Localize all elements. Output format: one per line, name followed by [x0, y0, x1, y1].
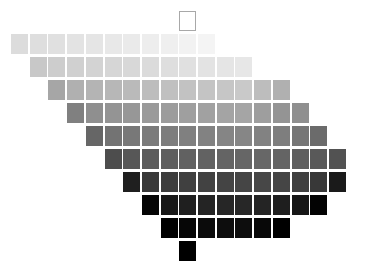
heatmap-cell[interactable]	[142, 195, 159, 215]
heatmap-cell[interactable]	[67, 57, 84, 77]
heatmap-cell[interactable]	[179, 149, 196, 169]
heatmap-cell[interactable]	[179, 172, 196, 192]
heatmap-cell[interactable]	[217, 195, 234, 215]
heatmap-cell[interactable]	[217, 218, 234, 238]
heatmap-cell[interactable]	[217, 149, 234, 169]
heatmap-cell[interactable]	[273, 126, 290, 146]
heatmap-cell[interactable]	[86, 126, 103, 146]
heatmap-cell[interactable]	[198, 149, 215, 169]
heatmap-cell[interactable]	[198, 172, 215, 192]
heatmap-cell[interactable]	[161, 218, 178, 238]
heatmap-cell[interactable]	[235, 172, 252, 192]
heatmap-cell[interactable]	[67, 34, 84, 54]
heatmap-cell[interactable]	[123, 57, 140, 77]
heatmap-cell[interactable]	[310, 172, 327, 192]
heatmap-cell[interactable]	[105, 34, 122, 54]
heatmap-cell[interactable]	[179, 80, 196, 100]
heatmap-cell[interactable]	[123, 149, 140, 169]
heatmap-cell[interactable]	[217, 80, 234, 100]
heatmap-cell[interactable]	[217, 172, 234, 192]
heatmap-cell[interactable]	[161, 34, 178, 54]
heatmap-cell[interactable]	[142, 126, 159, 146]
heatmap-cell[interactable]	[198, 103, 215, 123]
heatmap-cell[interactable]	[217, 57, 234, 77]
heatmap-cell[interactable]	[105, 149, 122, 169]
heatmap-cell[interactable]	[235, 103, 252, 123]
heatmap-cell[interactable]	[179, 34, 196, 54]
heatmap-cell[interactable]	[292, 149, 309, 169]
heatmap-cell[interactable]	[235, 126, 252, 146]
heatmap-cell[interactable]	[198, 57, 215, 77]
heatmap-cell[interactable]	[123, 80, 140, 100]
heatmap-cell[interactable]	[292, 103, 309, 123]
heatmap-cell[interactable]	[273, 218, 290, 238]
heatmap-cell[interactable]	[142, 103, 159, 123]
heatmap-cell[interactable]	[179, 103, 196, 123]
heatmap-cell[interactable]	[123, 172, 140, 192]
heatmap-cell[interactable]	[235, 57, 252, 77]
heatmap-cell[interactable]	[105, 126, 122, 146]
heatmap-cell[interactable]	[179, 126, 196, 146]
heatmap-cell[interactable]	[198, 218, 215, 238]
heatmap-cell[interactable]	[235, 195, 252, 215]
heatmap-cell[interactable]	[273, 195, 290, 215]
heatmap-cell[interactable]	[142, 80, 159, 100]
heatmap-cell[interactable]	[179, 195, 196, 215]
heatmap-cell[interactable]	[198, 80, 215, 100]
heatmap-cell[interactable]	[123, 103, 140, 123]
heatmap-cell[interactable]	[254, 80, 271, 100]
heatmap-cell[interactable]	[217, 103, 234, 123]
heatmap-cell[interactable]	[235, 80, 252, 100]
heatmap-cell[interactable]	[123, 126, 140, 146]
heatmap-cell[interactable]	[198, 195, 215, 215]
heatmap-cell[interactable]	[30, 34, 47, 54]
heatmap-cell[interactable]	[86, 80, 103, 100]
heatmap-cell[interactable]	[310, 195, 327, 215]
heatmap-cell[interactable]	[198, 126, 215, 146]
heatmap-cell[interactable]	[273, 103, 290, 123]
heatmap-cell[interactable]	[292, 172, 309, 192]
heatmap-cell[interactable]	[329, 149, 346, 169]
heatmap-cell[interactable]	[235, 149, 252, 169]
heatmap-cell[interactable]	[105, 57, 122, 77]
heatmap-cell[interactable]	[310, 126, 327, 146]
heatmap-cell[interactable]	[86, 57, 103, 77]
heatmap-cell[interactable]	[105, 80, 122, 100]
heatmap-cell[interactable]	[179, 218, 196, 238]
heatmap-cell[interactable]	[198, 34, 215, 54]
heatmap-cell[interactable]	[329, 172, 346, 192]
heatmap-cell[interactable]	[48, 80, 65, 100]
heatmap-cell[interactable]	[254, 103, 271, 123]
heatmap-cell[interactable]	[67, 80, 84, 100]
heatmap-cell[interactable]	[273, 80, 290, 100]
heatmap-cell[interactable]	[142, 172, 159, 192]
heatmap-cell[interactable]	[161, 195, 178, 215]
heatmap-cell[interactable]	[48, 34, 65, 54]
heatmap-cell[interactable]	[179, 241, 196, 261]
heatmap-cell[interactable]	[67, 103, 84, 123]
heatmap-cell[interactable]	[179, 57, 196, 77]
heatmap-cell[interactable]	[179, 11, 196, 31]
heatmap-cell[interactable]	[235, 218, 252, 238]
heatmap-cell[interactable]	[254, 218, 271, 238]
heatmap-cell[interactable]	[105, 103, 122, 123]
heatmap-cell[interactable]	[123, 34, 140, 54]
heatmap-cell[interactable]	[254, 172, 271, 192]
heatmap-cell[interactable]	[292, 195, 309, 215]
heatmap-cell[interactable]	[292, 126, 309, 146]
heatmap-cell[interactable]	[161, 57, 178, 77]
heatmap-cell[interactable]	[48, 57, 65, 77]
heatmap-cell[interactable]	[30, 57, 47, 77]
heatmap-cell[interactable]	[273, 149, 290, 169]
heatmap-cell[interactable]	[161, 126, 178, 146]
heatmap-cell[interactable]	[273, 172, 290, 192]
heatmap-cell[interactable]	[161, 149, 178, 169]
heatmap-cell[interactable]	[161, 172, 178, 192]
heatmap-cell[interactable]	[161, 103, 178, 123]
heatmap-cell[interactable]	[86, 103, 103, 123]
heatmap-cell[interactable]	[217, 126, 234, 146]
heatmap-cell[interactable]	[142, 149, 159, 169]
heatmap-cell[interactable]	[142, 34, 159, 54]
heatmap-cell[interactable]	[310, 149, 327, 169]
heatmap-cell[interactable]	[254, 126, 271, 146]
